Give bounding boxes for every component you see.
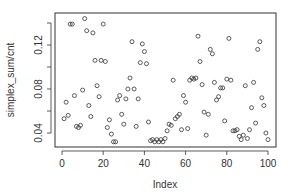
data-point [208,47,212,51]
data-point [147,120,151,124]
data-point [266,138,270,142]
y-axis: 0.040.080.12 [33,23,51,143]
data-point [163,137,167,141]
data-point [107,118,111,122]
data-point [245,137,249,141]
data-point [250,106,254,110]
x-tick-label: 40 [139,158,151,169]
data-point [116,98,120,102]
data-point [132,87,136,91]
data-point [227,36,231,40]
data-point [260,96,264,100]
y-tick-label: 0.08 [33,79,44,99]
x-tick-label: 60 [180,158,192,169]
data-point [66,113,70,117]
data-point [196,34,200,38]
data-point [182,94,186,98]
data-point [118,94,122,98]
data-point [252,80,256,84]
data-point [171,78,175,82]
plot-box [55,13,276,147]
data-point [128,76,132,80]
x-tick-label: 0 [59,158,65,169]
data-point [198,60,202,64]
data-point [138,61,142,65]
x-tick-label: 80 [221,158,233,169]
data-point [122,122,126,126]
x-axis: 020406080100 [59,151,277,169]
data-point [72,94,76,98]
data-point [97,95,101,99]
data-point [83,17,87,21]
x-tick-label: 20 [98,158,110,169]
scatter-chart: 020406080100 0.040.080.12 Index simplex_… [0,0,291,196]
data-point [105,126,109,130]
data-point [239,138,243,142]
data-point [200,83,204,87]
data-point [145,62,149,66]
data-point [180,128,184,132]
data-point [101,22,105,26]
data-point [93,58,97,62]
data-point [258,40,262,44]
y-tick-label: 0.12 [33,35,44,55]
data-point [126,87,130,91]
data-point [103,60,107,64]
data-point [124,97,128,101]
data-point [254,121,258,125]
data-point [212,80,216,84]
data-point [89,115,93,119]
data-point [85,29,89,33]
data-point [202,110,206,114]
data-point [241,133,245,137]
data-point [95,84,99,88]
data-point [262,104,266,108]
data-point [64,100,68,104]
data-points [62,17,270,144]
data-point [225,77,229,81]
data-point [248,128,252,132]
data-point [91,31,95,35]
data-point [243,84,247,88]
data-point [87,104,91,108]
data-point [81,88,85,92]
data-point [99,58,103,62]
x-axis-title: Index [153,179,177,190]
data-point [206,112,210,116]
data-point [134,124,138,128]
data-point [62,117,66,121]
data-point [140,42,144,46]
data-point [186,127,190,131]
y-axis-title: simplex_sum/cnt [5,43,16,118]
data-point [184,100,188,104]
data-point [264,131,268,135]
data-point [217,95,221,99]
data-point [256,47,260,51]
data-point [142,50,146,54]
data-point [204,133,208,137]
data-point [136,97,140,101]
data-point [210,52,214,56]
data-point [109,132,113,136]
data-point [229,78,233,82]
data-point [120,112,124,116]
data-point [165,129,169,133]
data-point [130,40,134,44]
y-tick-label: 0.04 [33,123,44,143]
data-point [223,119,227,123]
x-tick-label: 100 [260,158,277,169]
